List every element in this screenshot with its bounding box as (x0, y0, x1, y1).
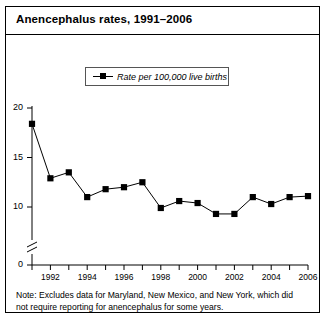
chart-axes (32, 106, 308, 265)
data-line (32, 124, 308, 214)
x-tick-label: 2000 (181, 272, 215, 282)
data-point-marker (158, 205, 164, 211)
x-tick-label: 1992 (33, 272, 67, 282)
figure-note: Note: Excludes data for Maryland, New Me… (16, 290, 306, 313)
data-point-marker (268, 201, 274, 207)
data-point-marker (139, 179, 145, 185)
data-point-marker (121, 184, 127, 190)
data-point-marker (29, 121, 35, 127)
data-markers (29, 121, 311, 217)
x-tick-label: 1996 (107, 272, 141, 282)
x-tick-label: 2004 (254, 272, 288, 282)
x-tick-label: 2006 (291, 272, 325, 282)
data-point-marker (66, 169, 72, 175)
data-point-marker (213, 211, 219, 217)
data-point-marker (84, 194, 90, 200)
x-tick-label: 2002 (217, 272, 251, 282)
y-tick-label: 0 (1, 259, 23, 269)
x-tick-label: 1994 (70, 272, 104, 282)
y-tick-label: 15 (1, 152, 23, 162)
y-tick-label: 20 (1, 102, 23, 112)
x-tick-label: 1998 (144, 272, 178, 282)
data-point-marker (176, 198, 182, 204)
x-axis-ticks (32, 265, 308, 270)
data-point-marker (305, 193, 311, 199)
data-point-marker (103, 186, 109, 192)
data-point-marker (195, 200, 201, 206)
y-axis-break-icon (27, 240, 37, 254)
data-point-marker (250, 194, 256, 200)
data-point-marker (231, 211, 237, 217)
data-point-marker (47, 175, 53, 181)
y-tick-label: 10 (1, 201, 23, 211)
figure-container: Anencephalus rates, 1991–2006 Rate per 1… (0, 0, 326, 319)
data-point-marker (287, 194, 293, 200)
